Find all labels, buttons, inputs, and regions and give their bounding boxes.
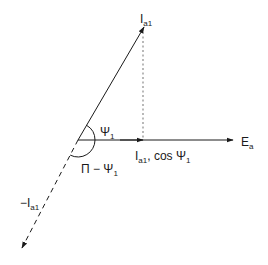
label-ia1: Ia1 — [140, 13, 152, 28]
ia1-vector — [78, 27, 144, 140]
label-projection: Ia1, cos Ψ1 — [135, 150, 190, 165]
label-neg-ia1: −Ia1 — [20, 197, 39, 212]
phasor-diagram — [0, 0, 268, 265]
label-pi-minus-psi1: Π − Ψ1 — [81, 163, 118, 178]
angle-arc-psi1 — [87, 125, 95, 140]
label-psi1: Ψ1 — [100, 126, 114, 141]
neg-ia1-vector — [22, 140, 78, 248]
label-ea: Ea — [241, 136, 253, 151]
